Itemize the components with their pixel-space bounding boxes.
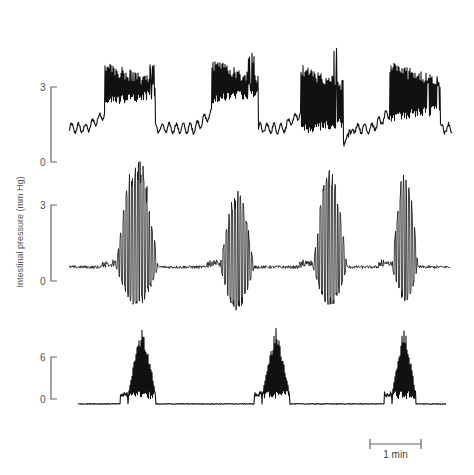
y-tick-label-middle-max: 3 — [40, 200, 46, 211]
panel-top: 3 0 — [40, 48, 452, 168]
y-axis-bracket-bottom — [51, 357, 57, 399]
panel-middle: 3 0 — [40, 162, 450, 311]
y-tick-label-bottom-max: 6 — [40, 352, 46, 363]
y-tick-label-top-zero: 0 — [40, 157, 46, 168]
y-tick-label-bottom-zero: 0 — [40, 394, 46, 405]
pressure-trace-top — [69, 48, 452, 146]
pressure-recording-figure: Intestinal pressure (mm Hg) 3 0 3 0 6 0 … — [0, 0, 474, 475]
time-scale-bar: 1 min — [370, 439, 421, 460]
scale-bar-line — [370, 439, 421, 449]
y-axis-bracket-top — [51, 87, 57, 162]
y-axis-bracket-middle — [51, 205, 57, 281]
pressure-trace-middle — [69, 162, 450, 311]
panel-bottom: 6 0 — [40, 328, 446, 405]
y-tick-label-middle-zero: 0 — [40, 276, 46, 287]
y-axis-title: Intestinal pressure (mm Hg) — [15, 176, 25, 287]
y-tick-label-top-max: 3 — [40, 82, 46, 93]
scale-bar-label: 1 min — [383, 449, 407, 460]
pressure-trace-bottom — [78, 328, 446, 404]
